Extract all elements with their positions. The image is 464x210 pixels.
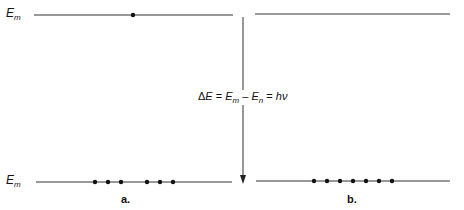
lower-level-label: Em (6, 173, 21, 189)
panel-label-b: b. (347, 193, 357, 205)
energy-equation: ΔE = Em – En = hν (196, 90, 289, 105)
arrow-head-icon (240, 175, 246, 184)
electron-dot (131, 13, 135, 17)
upper-level-label: Em (6, 6, 21, 22)
panel-label-a: a. (121, 193, 130, 205)
